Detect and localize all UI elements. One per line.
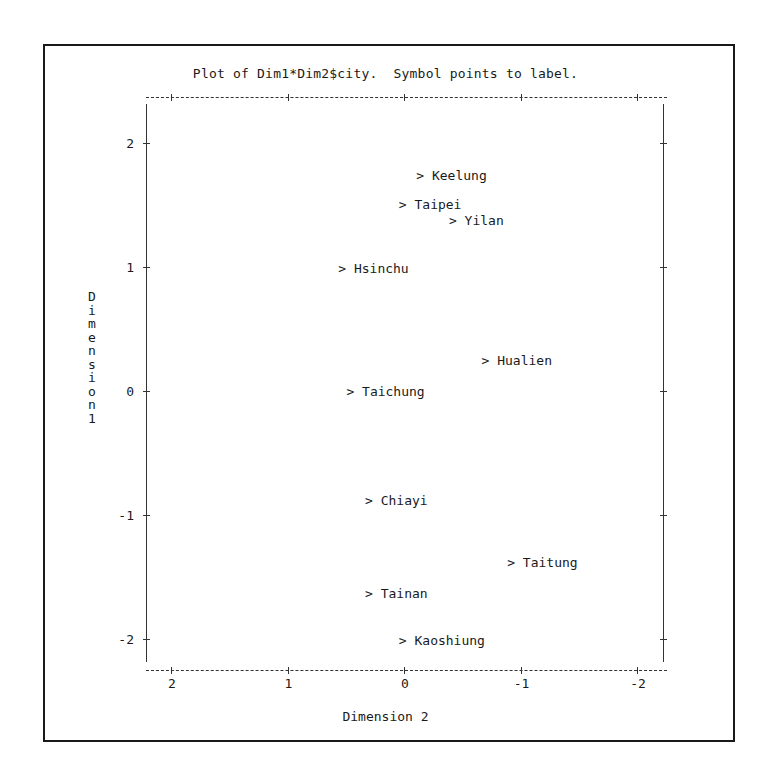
point-label: > Taitung (507, 555, 577, 570)
x-tick-bottom (637, 667, 638, 674)
x-tick-label: 2 (168, 676, 176, 691)
x-tick-label: -2 (630, 676, 646, 691)
y-tick-left (143, 143, 150, 144)
top-axis-line (146, 97, 667, 98)
x-tick-top (521, 94, 522, 101)
right-axis-line (663, 104, 664, 662)
x-tick-label: 1 (285, 676, 293, 691)
point-label: > Taichung (346, 384, 424, 399)
x-tick-bottom (404, 667, 405, 674)
bottom-axis-line (146, 670, 667, 671)
x-tick-bottom (171, 667, 172, 674)
x-axis-title: Dimension 2 (0, 709, 771, 724)
y-tick-label: -2 (104, 632, 134, 647)
x-tick-top (637, 94, 638, 101)
y-tick-label: 0 (104, 384, 134, 399)
point-label: > Tainan (365, 586, 428, 601)
point-label: > Keelung (416, 168, 486, 183)
x-tick-top (288, 94, 289, 101)
y-tick-left (143, 267, 150, 268)
y-axis-title: Dimension 1 (85, 290, 99, 425)
x-tick-label: -1 (514, 676, 530, 691)
point-label: > Chiayi (365, 493, 428, 508)
point-label: > Kaoshiung (399, 633, 485, 648)
y-tick-label: -1 (104, 508, 134, 523)
x-tick-label: 0 (401, 676, 409, 691)
x-tick-top (404, 94, 405, 101)
y-tick-right (660, 639, 667, 640)
y-tick-right (660, 267, 667, 268)
x-tick-bottom (521, 667, 522, 674)
y-tick-label: 2 (104, 136, 134, 151)
point-label: > Hsinchu (338, 261, 408, 276)
left-axis-line (146, 104, 147, 662)
y-tick-left (143, 515, 150, 516)
point-label: > Taipei (399, 196, 462, 211)
x-tick-bottom (288, 667, 289, 674)
y-tick-right (660, 143, 667, 144)
y-tick-label: 1 (104, 260, 134, 275)
y-tick-right (660, 515, 667, 516)
point-label: > Yilan (449, 212, 504, 227)
chart-title: Plot of Dim1*Dim2$city. Symbol points to… (0, 66, 771, 81)
y-tick-right (660, 391, 667, 392)
y-tick-left (143, 639, 150, 640)
x-tick-top (171, 94, 172, 101)
y-tick-left (143, 391, 150, 392)
point-label: > Hualien (482, 353, 552, 368)
